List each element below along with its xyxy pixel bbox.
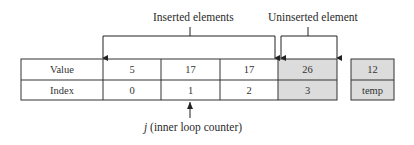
value-cell-3: 26 xyxy=(278,59,337,80)
index-cell-3: 3 xyxy=(278,80,337,100)
value-cell-1: 17 xyxy=(161,59,220,80)
temp-label: temp xyxy=(351,80,394,100)
j-description: (inner loop counter) xyxy=(147,121,242,133)
uninserted-bracket xyxy=(281,27,337,58)
row-label-index: Index xyxy=(21,80,103,100)
index-cell-0: 0 xyxy=(103,80,161,100)
uninserted-element-label: Uninserted element xyxy=(268,11,358,23)
temp-value: 12 xyxy=(351,59,394,80)
inserted-bracket xyxy=(103,27,275,58)
index-cell-2: 2 xyxy=(220,80,278,100)
j-pointer-label: j (inner loop counter) xyxy=(144,121,242,133)
index-cell-1: 1 xyxy=(161,80,220,100)
row-label-value: Value xyxy=(21,59,103,80)
inserted-elements-label: Inserted elements xyxy=(153,11,234,23)
value-cell-2: 17 xyxy=(220,59,278,80)
value-cell-0: 5 xyxy=(103,59,161,80)
